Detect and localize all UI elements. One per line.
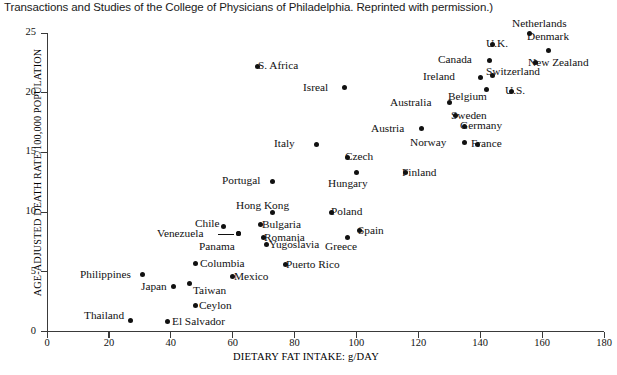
data-point <box>487 58 492 63</box>
leader-line-venezuela <box>218 234 234 235</box>
data-point-label: Czech <box>345 151 373 162</box>
data-point-label: S. Africa <box>258 60 298 71</box>
y-tick <box>41 33 47 34</box>
data-point-label: Bulgaria <box>262 219 301 230</box>
x-tick-label: 60 <box>218 337 248 348</box>
data-point <box>165 319 170 324</box>
data-point-label: Finland <box>402 167 437 178</box>
data-point-label: Ceylon <box>199 300 232 311</box>
data-point-label: Columbia <box>200 258 245 269</box>
data-point-label: Netherlands <box>512 18 567 29</box>
data-point <box>140 272 145 277</box>
x-tick-label: 40 <box>156 337 186 348</box>
data-point-label: Yugoslavia <box>269 239 319 250</box>
data-point <box>128 318 133 323</box>
data-point-label: Poland <box>331 206 362 217</box>
y-tick <box>41 212 47 213</box>
y-tick-label: 25 <box>14 26 36 37</box>
x-tick-label: 160 <box>527 337 557 348</box>
data-point <box>354 170 359 175</box>
data-point-label: Venezuela <box>157 228 203 239</box>
x-tick-label: 80 <box>280 337 310 348</box>
data-point-label: Portugal <box>222 175 260 186</box>
data-point <box>419 126 424 131</box>
y-tick-label: 5 <box>14 265 36 276</box>
data-point-label: Canada <box>438 54 472 65</box>
y-tick-label: 15 <box>14 145 36 156</box>
data-point-label: Mexico <box>234 271 269 282</box>
data-point-label: Hungary <box>328 178 368 189</box>
data-point-label: U.S. <box>505 85 525 96</box>
data-point-label: Austria <box>371 123 404 134</box>
data-point-label: Belgium <box>448 91 487 102</box>
data-point-label: Ireland <box>423 71 455 82</box>
y-tick-label: 0 <box>14 325 36 336</box>
data-point-label: Panama <box>199 241 235 252</box>
y-axis-line <box>47 33 48 332</box>
data-point-label: Thailand <box>84 310 124 321</box>
data-point-label: Japan <box>141 281 167 292</box>
data-point <box>462 140 467 145</box>
data-point-label: Spain <box>358 225 384 236</box>
data-point <box>270 179 275 184</box>
y-tick-label: 20 <box>14 86 36 97</box>
data-point <box>447 100 452 105</box>
data-point <box>221 224 226 229</box>
data-point-label: Greece <box>325 241 357 252</box>
data-point <box>193 261 198 266</box>
x-axis-label: DIETARY FAT INTAKE: g/DAY <box>0 351 612 362</box>
x-tick-label: 180 <box>589 337 617 348</box>
x-tick-label: 100 <box>341 337 371 348</box>
data-point <box>546 48 551 53</box>
data-point-label: Isreal <box>303 82 328 93</box>
x-tick-label: 140 <box>465 337 495 348</box>
data-point <box>345 235 350 240</box>
data-point-label: Taiwan <box>193 285 226 296</box>
y-tick <box>41 271 47 272</box>
data-point-label: Denmark <box>527 31 569 42</box>
x-tick-label: 120 <box>403 337 433 348</box>
data-point-label: U.K. <box>486 38 508 49</box>
y-tick <box>41 92 47 93</box>
data-point-label: El Salvador <box>172 316 225 327</box>
y-tick-label: 10 <box>14 205 36 216</box>
data-point-label: Norway <box>410 137 446 148</box>
data-point <box>342 85 347 90</box>
data-point-label: Germany <box>460 120 502 131</box>
data-point-label: Australia <box>390 97 431 108</box>
data-point-label: Puerto Rico <box>286 259 340 270</box>
data-point-label: Italy <box>274 138 295 149</box>
data-point-label: Switzerland <box>486 66 540 77</box>
data-point-label: France <box>471 138 502 149</box>
x-tick-label: 0 <box>32 337 62 348</box>
x-axis-line <box>47 331 604 332</box>
data-point <box>478 75 483 80</box>
data-point <box>187 281 192 286</box>
data-point-label: Hong Kong <box>236 200 289 211</box>
data-point <box>236 231 241 236</box>
data-point-label: Philippines <box>80 269 131 280</box>
x-tick-label: 20 <box>94 337 124 348</box>
y-tick <box>41 152 47 153</box>
data-point <box>314 142 319 147</box>
data-point <box>193 303 198 308</box>
data-point <box>171 284 176 289</box>
